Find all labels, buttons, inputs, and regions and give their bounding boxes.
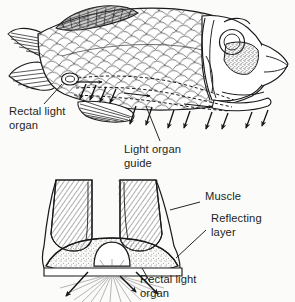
label-light-organ-guide-line2: guide	[124, 157, 152, 169]
figure-container: Rectal light organ Light organ guide Mus…	[0, 0, 295, 302]
label-reflecting-layer-line1: Reflecting	[211, 212, 262, 224]
label-muscle: Muscle	[205, 190, 241, 202]
label-reflecting-layer-line2: layer	[211, 226, 236, 238]
rectal-light-organ-upper	[62, 73, 79, 85]
label-light-organ-guide-line1: Light organ	[124, 143, 181, 155]
label-rectal-light-organ-upper-line2: organ	[9, 119, 38, 131]
label-rectal-light-organ-lower-line1: Rectal light	[140, 273, 197, 285]
label-rectal-light-organ-lower-line2: organ	[140, 287, 169, 299]
light-organ-diagram: Rectal light organ Light organ guide Mus…	[0, 0, 295, 302]
label-rectal-light-organ-upper-line1: Rectal light	[9, 105, 66, 117]
